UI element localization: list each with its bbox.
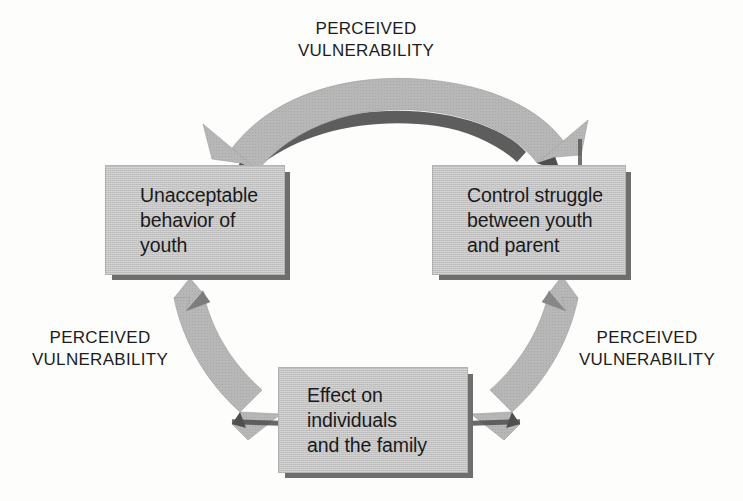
node-unacceptable-behavior: Unacceptable behavior of youth (105, 165, 285, 275)
connector-label-left: PERCEIVED VULNERABILITY (2, 327, 198, 371)
connector-top-arc (203, 78, 588, 176)
node-label-unacceptable-behavior: Unacceptable behavior of youth (106, 183, 266, 258)
node-label-effect-family: Effect on individuals and the family (279, 383, 435, 458)
connector-label-right: PERCEIVED VULNERABILITY (552, 327, 742, 371)
node-control-struggle: Control struggle between youth and paren… (432, 165, 626, 275)
node-effect-on-individuals-and-family: Effect on individuals and the family (278, 367, 468, 473)
node-label-control-struggle: Control struggle between youth and paren… (433, 183, 611, 258)
cycle-diagram: Unacceptable behavior of youth Control s… (0, 0, 743, 501)
connector-label-top: PERCEIVED VULNERABILITY (246, 18, 486, 62)
